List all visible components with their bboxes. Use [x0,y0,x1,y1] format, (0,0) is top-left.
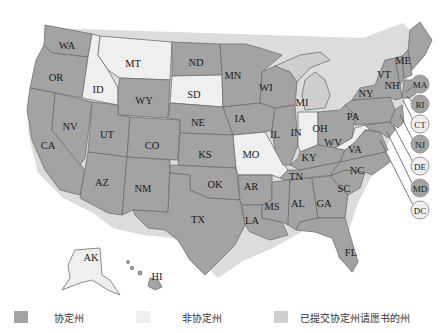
hi-island [127,261,130,264]
label-AL: AL [291,198,305,209]
callout-label-MA: MA [413,80,428,90]
hi-island [130,266,133,269]
label-PA: PA [347,111,360,122]
label-MS: MS [264,201,279,212]
state-ME [408,22,432,70]
label-ND: ND [188,57,204,68]
label-NM: NM [135,183,153,194]
label-IA: IA [234,113,245,124]
callout-label-DC: DC [414,206,427,216]
label-AZ: AZ [95,177,109,188]
label-SC: SC [338,183,351,194]
legend-item-compact: 协定州 [14,305,84,329]
label-NE: NE [191,117,205,128]
label-HI: HI [151,271,163,282]
label-WY: WY [135,95,153,106]
callout-label-MD: MD [413,184,428,194]
us-states-map: WA OR CA NV ID MT WY UT CO AZ NM ND SD N… [0,0,448,300]
label-NH: NH [384,80,400,91]
label-ID: ID [92,84,103,95]
label-MI: MI [296,97,309,108]
legend-label-non-compact: 非协定州 [182,310,222,325]
legend-swatch-compact [14,311,28,323]
label-WV: WV [324,137,342,148]
callout-label-CT: CT [414,120,426,130]
callout-label-RI: RI [416,100,425,110]
label-KS: KS [198,149,212,160]
legend: 协定州 非协定州 已提交协定州请愿书的州 [0,305,448,329]
legend-swatch-non-compact [136,311,150,323]
label-MO: MO [243,149,260,160]
label-MT: MT [125,58,141,69]
label-FL: FL [345,247,357,258]
label-NV: NV [62,121,78,132]
label-AK: AK [83,252,99,263]
label-SD: SD [187,89,201,100]
callout-label-DE: DE [414,162,426,172]
label-TN: TN [289,171,303,182]
label-NY: NY [358,88,374,99]
label-OH: OH [312,123,328,134]
label-IN: IN [290,127,301,138]
state-CO [127,117,180,160]
label-UT: UT [100,129,115,140]
legend-label-petition: 已提交协定州请愿书的州 [300,310,410,325]
label-VT: VT [377,69,392,80]
label-IL: IL [270,129,280,140]
label-KY: KY [301,152,317,163]
hi-island [138,271,142,275]
label-TX: TX [191,214,205,225]
label-LA: LA [245,215,259,226]
legend-item-non-compact: 非协定州 [136,305,222,329]
legend-item-petition: 已提交协定州请愿书的州 [274,305,410,329]
callout-circles: MA RI CT NJ DE MD DC [411,75,429,219]
label-CA: CA [41,140,56,151]
label-WI: WI [259,82,273,93]
label-ME: ME [395,55,411,66]
legend-swatch-petition [274,311,288,323]
legend-label-compact: 协定州 [54,310,84,325]
callout-label-NJ: NJ [415,140,425,150]
label-OR: OR [49,72,64,83]
label-GA: GA [316,198,332,209]
label-WA: WA [59,40,76,51]
label-NC: NC [350,165,365,176]
label-MN: MN [225,70,242,81]
label-CO: CO [145,140,160,151]
label-VA: VA [348,144,362,155]
label-OK: OK [207,179,223,190]
label-AR: AR [244,181,259,192]
